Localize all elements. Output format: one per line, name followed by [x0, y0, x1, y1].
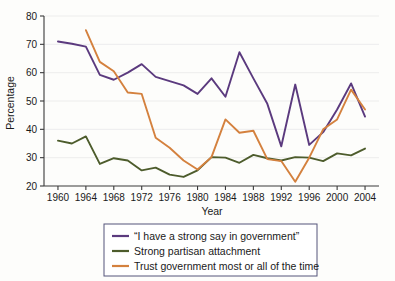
series-line-0 [58, 42, 365, 147]
x-tick-label-1988: 1988 [242, 192, 265, 203]
chart-figure: 20304050607080 1960196419681972197619801… [0, 0, 395, 281]
y-tick-label-60: 60 [26, 67, 38, 78]
x-tick-label-1976: 1976 [159, 192, 182, 203]
y-axis-title: Percentage [4, 76, 16, 130]
x-axis-title: Year [201, 205, 223, 217]
x-tick-labels: 1960196419681972197619801984198819921996… [47, 192, 377, 203]
y-tick-label-50: 50 [26, 96, 38, 107]
x-tick-label-1996: 1996 [298, 192, 321, 203]
y-tick-label-70: 70 [26, 39, 38, 50]
x-tick-label-1964: 1964 [75, 192, 98, 203]
x-tick-label-1960: 1960 [47, 192, 70, 203]
series-lines [58, 30, 365, 182]
chart-legend: “I have a strong say in government”Stron… [104, 224, 319, 276]
legend-label-2: Trust government most or all of the time [134, 260, 319, 272]
x-tick-label-1980: 1980 [186, 192, 209, 203]
y-tick-label-40: 40 [26, 124, 38, 135]
gridlines [44, 16, 379, 158]
x-tick-label-2000: 2000 [326, 192, 349, 203]
x-tick-label-1984: 1984 [214, 192, 237, 203]
legend-label-0: “I have a strong say in government” [134, 230, 300, 242]
series-line-2 [86, 30, 365, 182]
y-tick-labels: 20304050607080 [26, 11, 38, 192]
y-tick-label-20: 20 [26, 181, 38, 192]
x-tick-label-1992: 1992 [270, 192, 293, 203]
x-tick-label-1968: 1968 [103, 192, 126, 203]
line-chart: 20304050607080 1960196419681972197619801… [0, 0, 395, 281]
y-tick-label-80: 80 [26, 11, 38, 22]
x-tick-label-1972: 1972 [131, 192, 154, 203]
x-tick-label-2004: 2004 [354, 192, 377, 203]
y-tick-label-30: 30 [26, 152, 38, 163]
legend-label-1: Strong partisan attachment [134, 245, 260, 257]
